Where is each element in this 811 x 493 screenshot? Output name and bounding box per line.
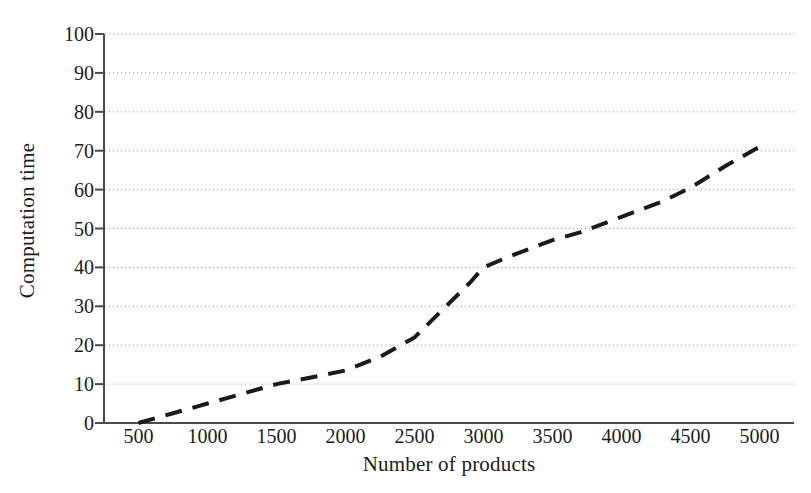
- axis-tick-marks: [95, 34, 104, 423]
- data-series-line: [139, 147, 760, 423]
- plot-area: [0, 0, 811, 493]
- chart-figure: Computation time Number of products 0102…: [0, 0, 811, 493]
- gridlines: [105, 34, 794, 384]
